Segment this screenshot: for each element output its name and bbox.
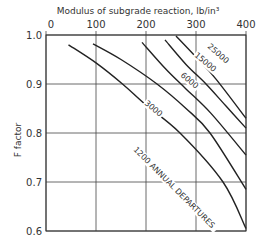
curve-1200 <box>69 45 247 229</box>
x-tick-label: 200 <box>136 19 155 30</box>
y-tick-label: 0.8 <box>26 128 42 139</box>
y-tick-label: 0.9 <box>26 79 42 90</box>
y-tick-label: 0.6 <box>26 226 42 237</box>
x-tick-labels: 0100200300400 <box>48 19 256 30</box>
x-axis-title: Modulus of subgrade reaction, lb/in³ <box>57 6 220 16</box>
curve-3000 <box>93 44 246 190</box>
grid <box>46 31 246 231</box>
y-axis-title: F factor <box>13 122 23 157</box>
x-tick-label: 0 <box>48 19 54 30</box>
x-tick-label: 400 <box>236 19 255 30</box>
f-factor-chart: Modulus of subgrade reaction, lb/in³ 010… <box>0 0 260 252</box>
x-tick-label: 300 <box>186 19 205 30</box>
y-tick-label: 1.0 <box>26 30 42 41</box>
y-tick-labels: 1.00.90.80.70.6 <box>26 30 42 237</box>
curves: 1200 ANNUAL DEPARTURES300060001500025000 <box>69 36 247 233</box>
y-tick-label: 0.7 <box>26 177 42 188</box>
x-tick-label: 100 <box>86 19 105 30</box>
